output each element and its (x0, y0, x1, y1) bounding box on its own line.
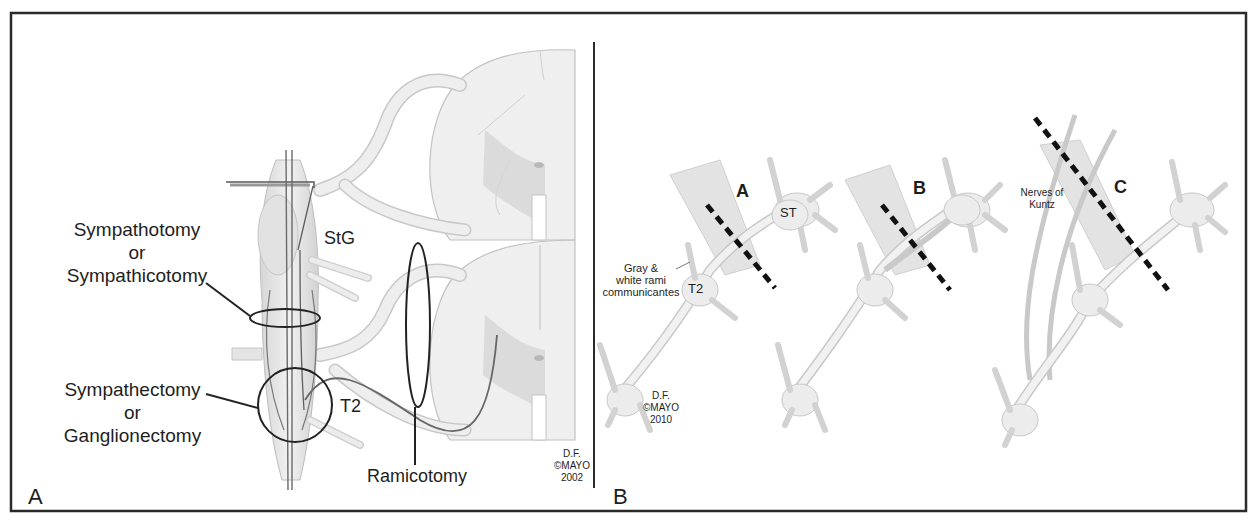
subpanel-letter-a: A (736, 181, 749, 202)
credit-copyright: ©MAYO (641, 402, 681, 414)
credit-copyright: ©MAYO (552, 460, 592, 472)
ganglionectomy-term: Ganglionectomy (55, 424, 210, 447)
stg-label: StG (324, 228, 355, 249)
panel-a-illustration (206, 50, 575, 490)
sympathicotomy-term: Sympathicotomy (62, 264, 212, 287)
rami-line-2: white rami (595, 274, 687, 286)
kuntz-line-1: Nerves of (1012, 187, 1072, 199)
sympathectomy-term: Sympathectomy (55, 378, 210, 401)
credit-panel-a: D.F. ©MAYO 2002 (552, 448, 592, 484)
subpanel-c-drawing (944, 115, 1225, 445)
kuntz-line-2: Kuntz (1012, 199, 1072, 211)
ramicotomy-label: Ramicotomy (367, 466, 467, 487)
t2-label-panel-b: T2 (688, 282, 703, 296)
panel-b-illustration (600, 115, 1225, 445)
sympathectomy-label: Sympathectomy or Ganglionectomy (55, 378, 210, 447)
panel-letter-b: B (613, 484, 628, 510)
nerves-of-kuntz-label: Nerves of Kuntz (1012, 187, 1072, 211)
sympathectomy-or: or (55, 401, 210, 424)
sympathotomy-or: or (62, 241, 212, 264)
sympathotomy-term: Sympathotomy (62, 218, 212, 241)
subpanel-letter-b: B (913, 178, 926, 199)
rami-communicantes-label: Gray & white rami communicantes (595, 262, 687, 298)
credit-initials: D.F. (552, 448, 592, 460)
credit-panel-b: D.F. ©MAYO 2010 (641, 390, 681, 426)
credit-initials: D.F. (641, 390, 681, 402)
st-label: ST (780, 206, 797, 220)
rami-line-1: Gray & (595, 262, 687, 274)
t2-label-panel-a: T2 (340, 396, 361, 417)
sympathectomy-leader (206, 394, 258, 408)
panel-letter-a: A (28, 484, 43, 510)
sympathotomy-label: Sympathotomy or Sympathicotomy (62, 218, 212, 287)
credit-year: 2002 (552, 472, 592, 484)
credit-year: 2010 (641, 414, 681, 426)
rami-line-3: communicantes (595, 286, 687, 298)
subpanel-letter-c: C (1114, 177, 1127, 198)
sympathotomy-leader (206, 283, 250, 316)
